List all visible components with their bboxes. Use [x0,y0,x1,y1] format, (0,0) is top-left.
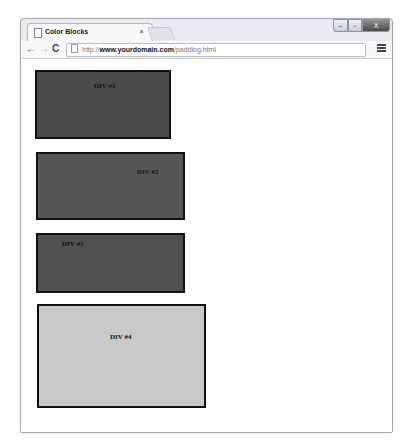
back-arrow-icon[interactable]: ← [26,42,36,56]
browser-toolbar: ← → C http://www.yourdomain.com/padding.… [21,41,392,59]
page-icon [71,44,78,53]
browser-window: Color Blocks × – ▫ X ← → C http://www.yo… [20,18,393,433]
block-label: DIV #1 [94,82,115,90]
div-block-4: DIV #4 [37,304,206,408]
title-bar: Color Blocks × – ▫ X [21,19,392,41]
block-label: DIV #4 [110,333,131,341]
minimize-button[interactable]: – [333,19,348,32]
page-icon [34,28,42,38]
url-path: /padding.html [174,46,216,53]
window-controls: – ▫ X [333,19,390,31]
address-bar[interactable]: http://www.yourdomain.com/padding.html [66,43,366,57]
block-label: DIV #2 [137,168,158,176]
close-button[interactable]: X [362,19,390,32]
div-block-3: DIV #3 [36,233,185,293]
new-tab-button[interactable] [147,27,176,40]
div-block-1: DIV #1 [35,70,171,139]
div-block-2: DIV #2 [36,152,185,220]
forward-arrow-icon[interactable]: → [39,42,49,56]
block-label: DIV #3 [62,240,83,248]
tab-close-icon[interactable]: × [139,27,144,36]
page-content: DIV #1 DIV #2 DIV #3 DIV #4 [21,59,392,432]
tab-title: Color Blocks [45,28,88,35]
menu-icon[interactable] [377,44,387,54]
url-scheme: http:// [82,46,100,53]
url-host: www.yourdomain.com [100,46,174,53]
reload-icon[interactable]: C [52,42,59,56]
tab-color-blocks[interactable]: Color Blocks × [27,23,153,42]
maximize-button[interactable]: ▫ [348,19,362,32]
